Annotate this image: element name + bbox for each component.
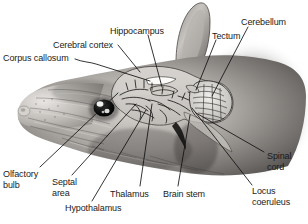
label-corpus-callosum: Corpus callosum [3,53,69,64]
label-thalamus: Thalamus [110,189,149,200]
label-cerebral-cortex: Cerebral cortex [53,40,113,51]
label-hypothalamus: Hypothalamus [65,203,121,214]
label-olfactory-bulb: Olfactory bulb [3,169,38,190]
figure-canvas: Corpus callosum Cerebral cortex Hippocam… [0,0,308,224]
label-cerebellum: Cerebellum [241,17,286,28]
label-hippocampus: Hippocampus [110,26,164,37]
label-brain-stem: Brain stem [163,189,205,200]
label-locus-coeruleus: Locus coeruleus [252,186,290,207]
label-tectum: Tectum [212,31,240,42]
label-septal-area: Septal area [52,177,77,198]
label-spinal-cord: Spinal cord [267,151,291,172]
